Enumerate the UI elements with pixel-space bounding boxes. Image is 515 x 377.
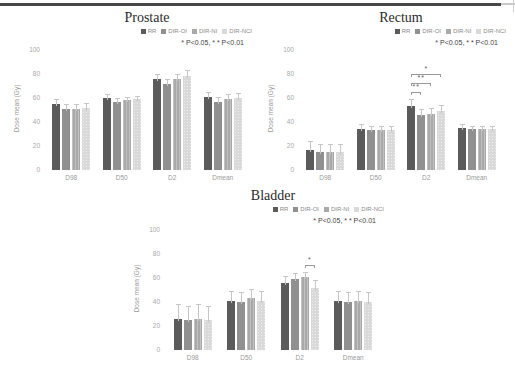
y-axis-label: Dose mean (Gy): [13, 49, 20, 169]
error-bar-cap: [429, 108, 434, 109]
y-tick-label: 0: [18, 166, 40, 173]
legend-label: DIR-NI: [453, 28, 471, 34]
bar-d50-dir-ni: [247, 298, 255, 350]
chart-prostate: ProstateRRDIR-OIDIR-NIDIR-NCI* P<0.05, *…: [8, 8, 256, 186]
error-bar-cap: [346, 292, 351, 293]
error-bar-cap: [338, 144, 343, 145]
sig-bracket-end: [411, 92, 412, 95]
x-category-label: Dmean: [198, 174, 248, 181]
error-bar-cap: [480, 126, 485, 127]
legend-swatch-icon: [324, 207, 329, 212]
bar-d2-dir-ni: [427, 114, 435, 170]
error-bar-cap: [115, 98, 120, 99]
bar-d98-rr: [174, 319, 182, 350]
bar-d98-dir-oi: [62, 109, 70, 170]
bar-d98-dir-oi: [316, 152, 324, 170]
y-tick-label: 60: [138, 274, 160, 281]
x-category-label: Dmean: [452, 174, 502, 181]
error-bar-cap: [64, 104, 69, 105]
bar-d50-dir-ni: [123, 100, 131, 170]
y-tick-label: 40: [138, 298, 160, 305]
error-bar-cap: [303, 272, 308, 273]
y-tick-label: 100: [138, 226, 160, 233]
error-bar-cap: [206, 92, 211, 93]
error-bar-cap: [74, 104, 79, 105]
top-rule: [0, 3, 501, 6]
error-bar: [421, 109, 422, 117]
bar-dmean-dir-ni: [354, 301, 362, 350]
x-category-label: D50: [97, 174, 147, 181]
error-bar-cap: [176, 304, 181, 305]
legend-label: RR: [280, 206, 289, 212]
x-category-label: D50: [221, 354, 271, 361]
bar-d2-rr: [281, 283, 289, 350]
bar-d2-rr: [153, 79, 161, 170]
sig-bracket-end: [411, 83, 412, 86]
x-category-label: D98: [168, 354, 218, 361]
bar-dmean-dir-nci: [364, 302, 372, 350]
x-category-label: D2: [401, 174, 451, 181]
y-axis-label: Dose mean (Gy): [267, 49, 274, 169]
bar-d98-dir-oi: [184, 320, 192, 350]
y-tick-label: 100: [272, 46, 294, 53]
bar-dmean-dir-ni: [224, 99, 232, 170]
error-bar-cap: [470, 126, 475, 127]
y-tick-label: 80: [272, 70, 294, 77]
legend-swatch-icon: [222, 29, 227, 34]
y-tick-label: 0: [138, 346, 160, 353]
error-bar-cap: [84, 103, 89, 104]
legend-item-rr: RR: [395, 28, 411, 34]
error-bar-cap: [293, 273, 298, 274]
error-bar: [261, 291, 262, 303]
sig-bracket-line: [411, 74, 441, 75]
error-bar: [86, 103, 87, 110]
legend-swatch-icon: [161, 29, 166, 34]
error-bar-cap: [226, 94, 231, 95]
bar-d98-dir-ni: [72, 109, 80, 170]
error-bar: [368, 292, 369, 304]
legend-item-dir-oi: DIR-OI: [161, 28, 187, 34]
error-bar-cap: [196, 304, 201, 305]
legend-label: DIR-OI: [422, 28, 441, 34]
legend-item-dir-nci: DIR-NCI: [222, 28, 252, 34]
error-bar: [348, 292, 349, 304]
chart-title: Rectum: [300, 10, 502, 26]
bar-dmean-dir-oi: [214, 102, 222, 170]
error-bar: [305, 272, 306, 279]
legend-swatch-icon: [476, 29, 481, 34]
error-bar-cap: [216, 97, 221, 98]
y-tick-label: 20: [272, 142, 294, 149]
error-bar-cap: [356, 291, 361, 292]
error-bar: [188, 306, 189, 322]
bar-d2-dir-nci: [183, 76, 191, 170]
legend-label: RR: [402, 28, 411, 34]
error-bar: [330, 144, 331, 154]
error-bar-cap: [336, 291, 341, 292]
chart-title: Bladder: [166, 188, 380, 204]
sig-bracket-label: **: [411, 74, 431, 81]
bar-d2-dir-oi: [291, 279, 299, 350]
legend-item-dir-nci: DIR-NCI: [476, 28, 506, 34]
error-bar: [251, 289, 252, 301]
legend-swatch-icon: [395, 29, 400, 34]
error-bar-cap: [236, 93, 241, 94]
bar-d50-dir-nci: [133, 99, 141, 170]
legend: RRDIR-OIDIR-NIDIR-NCI: [273, 206, 384, 212]
page-edge-mark: [513, 0, 514, 12]
y-tick-label: 80: [138, 250, 160, 257]
error-bar-cap: [165, 79, 170, 80]
bar-d50-dir-oi: [237, 302, 245, 350]
sig-bracket-end: [420, 92, 421, 95]
sig-bracket-label: *: [300, 256, 320, 263]
bar-d2-dir-ni: [173, 79, 181, 170]
error-bar-cap: [439, 105, 444, 106]
bar-d50-dir-oi: [367, 130, 375, 170]
y-tick-label: 80: [18, 70, 40, 77]
error-bar: [167, 79, 168, 86]
sig-bracket-end: [430, 83, 431, 86]
bar-d2-dir-oi: [163, 84, 171, 170]
x-category-label: D98: [300, 174, 350, 181]
bar-d98-dir-ni: [326, 152, 334, 170]
legend-label: DIR-NCI: [361, 206, 384, 212]
legend-swatch-icon: [192, 29, 197, 34]
